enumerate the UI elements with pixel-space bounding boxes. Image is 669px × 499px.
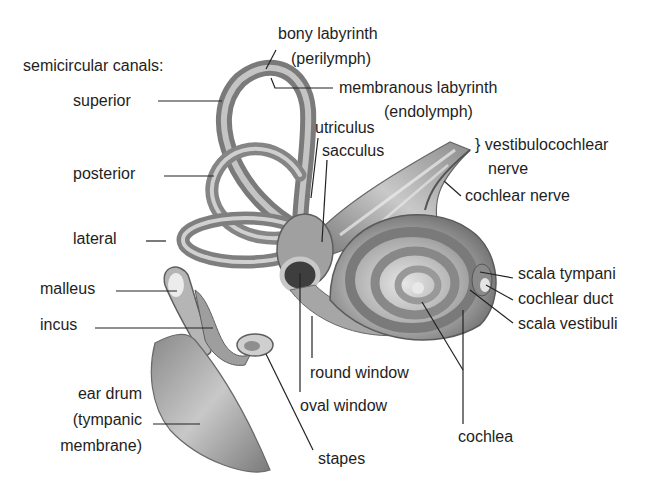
semicircular-canals-heading: semicircular canals: [23,57,163,75]
label-scala-vestibuli: scala vestibuli [518,315,618,333]
label-cochlea: cochlea [458,428,513,446]
label-incus: incus [40,316,77,334]
label-cochlear-duct: cochlear duct [518,290,613,308]
label-membranous-labyrinth-line1: membranous labyrinth [339,79,497,97]
label-scala-tympani: scala tympani [518,265,616,283]
label-stapes: stapes [318,450,365,468]
label-sacculus: sacculus [322,142,384,160]
label-bony-labyrinth-line1: bony labyrinth [278,25,378,43]
label-ear-drum-line1: ear drum [30,385,142,403]
label-vestibulocochlear-nerve-line2: nerve [488,160,528,178]
label-cochlear-nerve: cochlear nerve [465,187,570,205]
label-oval-window: oval window [300,397,387,415]
label-round-window: round window [310,364,409,382]
label-posterior: posterior [73,165,135,183]
label-membranous-labyrinth-line2: (endolymph) [384,103,473,121]
label-vestibulocochlear-nerve-line1: } vestibulocochlear [475,136,608,154]
label-ear-drum-line3: membrane) [30,437,142,455]
label-bony-labyrinth-line2: (perilymph) [291,50,371,68]
label-superior: superior [73,92,131,110]
label-utriculus: utriculus [315,119,375,137]
inner-ear-diagram: semicircular canals: superior posterior … [0,0,669,499]
label-ear-drum-line2: (tympanic [30,411,142,429]
label-lateral: lateral [73,230,117,248]
label-malleus: malleus [40,280,95,298]
